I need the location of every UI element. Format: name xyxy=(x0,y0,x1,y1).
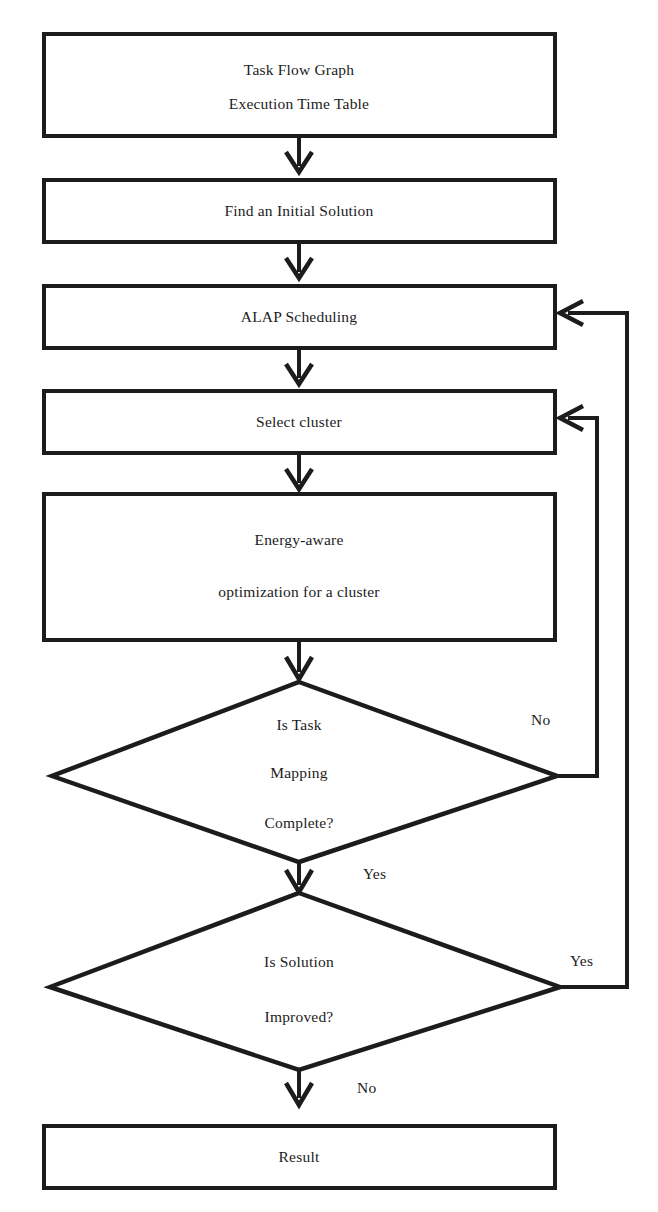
connector-optimize-to-mapping xyxy=(286,640,312,679)
node-energy-aware-line1: Energy-aware xyxy=(254,531,343,548)
node-decision-solution-improved: Is Solution Improved? xyxy=(50,893,560,1070)
flowchart-canvas: Task Flow Graph Execution Time Table Fin… xyxy=(0,0,658,1212)
node-decision-task-mapping: Is Task Mapping Complete? xyxy=(52,682,557,862)
node-find-initial-solution-label: Find an Initial Solution xyxy=(224,202,373,219)
node-alap-scheduling-label: ALAP Scheduling xyxy=(241,308,358,325)
edge-label-mapping-yes: Yes xyxy=(363,865,386,882)
connector-alap-to-select xyxy=(286,348,312,384)
node-decision-improved-line2: Improved? xyxy=(265,1008,334,1025)
node-select-cluster: Select cluster xyxy=(44,391,555,453)
connector-select-to-optimize xyxy=(286,453,312,489)
node-decision-mapping-line1: Is Task xyxy=(276,716,321,733)
connector-input-to-initial xyxy=(286,136,312,172)
node-find-initial-solution: Find an Initial Solution xyxy=(44,180,555,242)
connector-improved-no-to-result xyxy=(286,1068,312,1105)
node-result: Result xyxy=(44,1126,555,1188)
edge-label-mapping-no: No xyxy=(531,711,550,728)
edge-label-improved-no: No xyxy=(357,1079,376,1096)
edge-label-improved-yes: Yes xyxy=(570,952,593,969)
connector-initial-to-alap xyxy=(286,242,312,278)
node-result-label: Result xyxy=(279,1148,320,1165)
connector-mapping-yes-to-improved xyxy=(286,860,312,892)
node-alap-scheduling: ALAP Scheduling xyxy=(44,286,555,348)
connector-mapping-no-feedback xyxy=(557,406,597,776)
connector-improved-yes-feedback xyxy=(560,301,627,987)
flowchart-svg: Task Flow Graph Execution Time Table Fin… xyxy=(0,0,658,1212)
node-decision-improved-line1: Is Solution xyxy=(264,953,334,970)
node-decision-mapping-line2: Mapping xyxy=(270,764,327,781)
node-decision-mapping-line3: Complete? xyxy=(265,814,334,831)
node-input: Task Flow Graph Execution Time Table xyxy=(44,34,555,136)
node-energy-aware-line2: optimization for a cluster xyxy=(218,583,380,600)
node-input-line1: Task Flow Graph xyxy=(244,61,354,78)
node-select-cluster-label: Select cluster xyxy=(256,413,343,430)
node-energy-aware-optimization: Energy-aware optimization for a cluster xyxy=(44,494,555,640)
node-input-line2: Execution Time Table xyxy=(229,95,369,112)
